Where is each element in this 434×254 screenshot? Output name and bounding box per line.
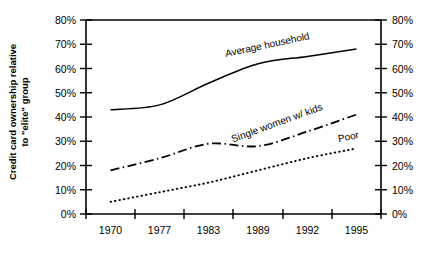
y-tick-label: 50% (55, 87, 76, 99)
y-tick-label: 70% (55, 38, 76, 50)
x-tick-label: 1977 (148, 224, 172, 236)
series-label-single-women-with-kids: Single women w/ kids (230, 101, 324, 144)
y-tick-label-right: 60% (392, 63, 413, 75)
chart-plot: 80% 70% 60% 50% 40% 30% 20% 10% 0% 80% 7… (0, 0, 434, 254)
x-tick-label: 1992 (296, 224, 320, 236)
y-tick-label-right: 30% (392, 135, 413, 147)
y-tick-label-right: 40% (392, 111, 413, 123)
y-tick-label: 10% (55, 184, 76, 196)
x-tick-label: 1983 (197, 224, 221, 236)
y-axis-right-labels: 80% 70% 60% 50% 40% 30% 20% 10% 0% (392, 14, 413, 220)
series-line-poor (111, 149, 357, 202)
y-tick-label-right: 10% (392, 184, 413, 196)
y-tick-label: 20% (55, 160, 76, 172)
y-tick-label-right: 70% (392, 38, 413, 50)
series-label-average-household: Average household (224, 30, 310, 59)
y-tick-label: 60% (55, 63, 76, 75)
y-tick-label: 30% (55, 135, 76, 147)
x-tick-label: 1995 (345, 224, 369, 236)
x-tick-label: 1989 (246, 224, 270, 236)
x-tick-label: 1970 (99, 224, 123, 236)
y-tick-label-right: 0% (392, 208, 407, 220)
y-tick-label-right: 20% (392, 160, 413, 172)
y-tick-label: 0% (61, 208, 76, 220)
x-axis-labels: 1970 1977 1983 1989 1992 1995 (99, 224, 369, 236)
y-tick-label: 80% (55, 14, 76, 26)
series-label-poor: Poor (337, 129, 361, 144)
y-tick-label-right: 50% (392, 87, 413, 99)
y-tick-label: 40% (55, 111, 76, 123)
y-tick-label-right: 80% (392, 14, 413, 26)
y-axis-left-labels: 80% 70% 60% 50% 40% 30% 20% 10% 0% (55, 14, 76, 220)
chart-container: Credit card ownership relative to "elite… (0, 0, 434, 254)
